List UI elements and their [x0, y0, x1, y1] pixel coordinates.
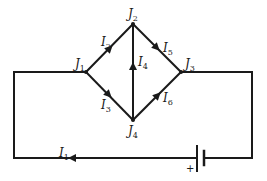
circuit-drawing [0, 0, 267, 181]
current-label-i5: I5 [163, 42, 173, 57]
circuit-diagram: J1 J2 J3 J4 I1 I2 I3 I4 I5 I6 + [0, 0, 267, 181]
outer-left-wire [14, 72, 197, 158]
arrow-i4-icon [129, 62, 137, 70]
junction-label-j1: J1 [75, 58, 85, 73]
junction-node-j3 [179, 70, 183, 74]
outer-right-wire [181, 72, 252, 158]
arrow-i1-icon [68, 154, 76, 162]
junction-node-j4 [131, 118, 135, 122]
current-label-i4: I4 [138, 56, 148, 71]
junction-label-j4: J4 [128, 125, 138, 140]
current-label-i3: I3 [101, 99, 111, 114]
junction-label-j3: J3 [185, 58, 195, 73]
current-label-i6: I6 [163, 92, 173, 107]
junction-label-j2: J2 [128, 8, 138, 23]
current-label-i1: I1 [59, 147, 69, 162]
current-label-i2: I2 [101, 36, 111, 51]
battery-plus-label: + [186, 164, 194, 174]
